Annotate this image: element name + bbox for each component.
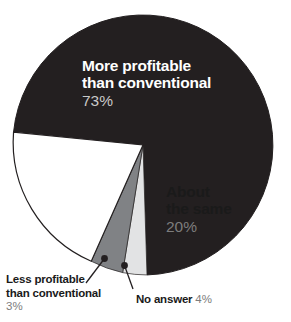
slice-label-about-the-same: About the same 20% [166, 183, 232, 236]
pie-chart: More profitable than conventional 73% Ab… [0, 0, 291, 322]
slice-label-less-profitable-line2: than conventional [6, 287, 101, 301]
slice-value-more-profitable: 73% [82, 92, 211, 110]
slice-label-less-profitable-line1: Less profitable [6, 273, 101, 287]
slice-label-no-answer-line1: No answer [136, 293, 192, 305]
slice-value-no-answer: 4% [195, 293, 212, 305]
slice-label-more-profitable: More profitable than conventional 73% [82, 57, 211, 110]
slice-label-less-profitable: Less profitable than conventional 3% [6, 273, 101, 314]
slice-value-less-profitable: 3% [6, 300, 101, 314]
slice-label-more-profitable-line1: More profitable [82, 57, 211, 74]
slice-label-about-the-same-line2: the same [166, 200, 232, 217]
slice-label-more-profitable-line2: than conventional [82, 74, 211, 91]
slice-label-no-answer: No answer4% [136, 289, 212, 307]
slice-value-about-the-same: 20% [166, 218, 232, 236]
slice-label-about-the-same-line1: About [166, 183, 232, 200]
